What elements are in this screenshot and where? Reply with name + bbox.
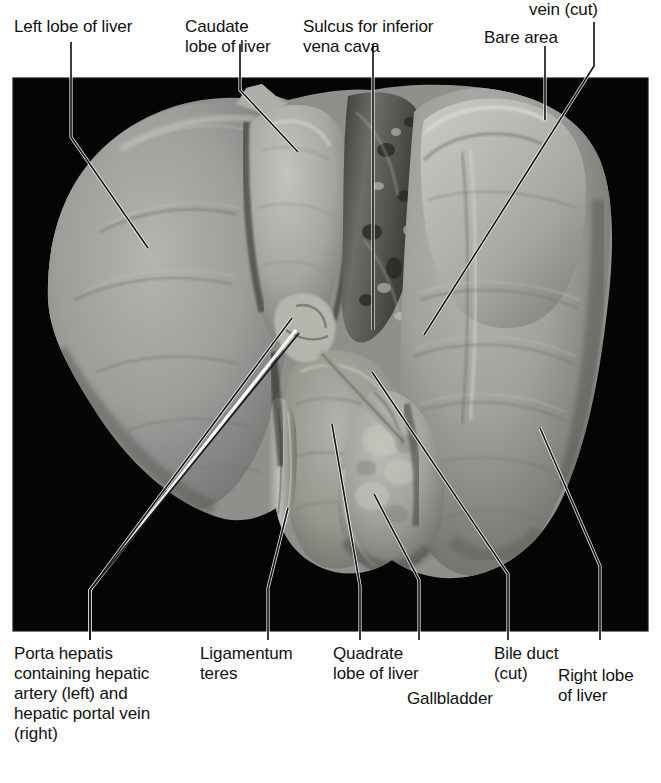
label-caudate-lobe-of-liver: Caudatelobe of liver [185, 17, 271, 57]
label-porta-hepatis: Porta hepatiscontaining hepaticartery (l… [14, 644, 150, 744]
label-gallbladder-line1: Gallbladder [407, 689, 493, 708]
label-right-lobe-line1: Right lobe [558, 666, 634, 685]
label-quadrate-line1: Quadrate [333, 644, 403, 663]
label-sulcus-line2: vena cava [303, 37, 380, 56]
label-bile-duct-cut: Bile duct(cut) [494, 644, 558, 684]
label-caudate-line2: lobe of liver [185, 37, 271, 56]
label-bare-area-line1: Bare area [484, 28, 558, 47]
label-porta-line5: (right) [14, 724, 58, 743]
label-bare-area: Bare area [484, 28, 558, 48]
label-porta-line3: artery (left) and [14, 684, 128, 703]
label-left-lobe-of-liver: Left lobe of liver [14, 17, 132, 37]
label-right-lobe-of-liver: Right lobeof liver [558, 666, 634, 706]
label-hepatic-vein-line1: vein (cut) [529, 0, 598, 19]
label-caudate-line1: Caudate [185, 17, 249, 36]
label-left-lobe-line1: Left lobe of liver [14, 17, 132, 36]
label-ligamentum-line2: teres [200, 664, 237, 683]
label-right-lobe-line2: of liver [558, 686, 607, 705]
label-porta-line2: containing hepatic [14, 664, 149, 683]
label-bile-line2: (cut) [494, 664, 528, 683]
label-sulcus-for-inferior-vena-cava: Sulcus for inferiorvena cava [303, 17, 433, 57]
label-porta-line4: hepatic portal vein [14, 704, 150, 723]
label-sulcus-line1: Sulcus for inferior [303, 17, 433, 36]
label-quadrate-lobe-of-liver: Quadratelobe of liver [333, 644, 419, 684]
specimen-photograph [13, 78, 648, 631]
label-ligamentum-line1: Ligamentum [200, 644, 293, 663]
label-porta-line1: Porta hepatis [14, 644, 113, 663]
label-ligamentum-teres: Ligamentumteres [200, 644, 293, 684]
label-quadrate-line2: lobe of liver [333, 664, 419, 683]
label-hepatic-vein-cut: vein (cut) [529, 0, 598, 20]
label-gallbladder: Gallbladder [407, 689, 493, 709]
label-bile-line1: Bile duct [494, 644, 558, 663]
